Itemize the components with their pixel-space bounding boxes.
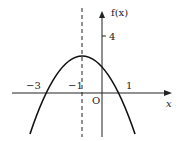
x-tick-label-1: 1 xyxy=(126,80,132,91)
y-tick-label-4: 4 xyxy=(109,31,115,42)
y-axis-label: f(x) xyxy=(111,7,128,18)
parabola-chart: f(x) 4 −3 −1 1 O x xyxy=(0,0,180,141)
x-axis-label: x xyxy=(166,98,172,109)
y-axis-arrow-icon xyxy=(99,11,105,18)
x-tick-label-neg3: −3 xyxy=(26,80,41,91)
x-tick-label-neg1: −1 xyxy=(68,80,83,91)
origin-label: O xyxy=(92,95,100,106)
x-axis-arrow-icon xyxy=(164,90,172,96)
